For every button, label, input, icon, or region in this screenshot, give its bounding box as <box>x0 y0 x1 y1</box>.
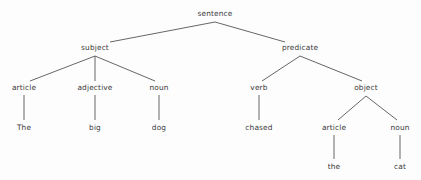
tree-edge-subject-to-noun1 <box>95 56 155 81</box>
tree-node-noun1: noun <box>149 84 168 91</box>
tree-edge-predicate-to-verb1 <box>262 56 300 81</box>
tree-node-word-chased: chased <box>245 124 272 131</box>
tree-node-word-dog: dog <box>152 124 166 131</box>
tree-node-word-cat: cat <box>394 163 406 170</box>
tree-node-adjective1: adjective <box>77 84 112 91</box>
tree-node-word-the1: The <box>17 124 31 131</box>
tree-node-verb1: verb <box>250 84 267 91</box>
tree-node-word-big: big <box>89 124 101 131</box>
tree-node-predicate: predicate <box>282 44 318 51</box>
tree-node-object: object <box>354 84 378 91</box>
tree-node-sentence: sentence <box>197 10 232 17</box>
tree-node-article2: article <box>322 124 346 131</box>
parse-tree-diagram: sentencesubjectpredicatearticleadjective… <box>0 0 421 180</box>
tree-node-article1: article <box>12 84 36 91</box>
tree-edge-object-to-noun2 <box>366 96 397 120</box>
tree-edge-predicate-to-object <box>300 56 362 81</box>
tree-node-subject: subject <box>81 44 109 51</box>
tree-edge-sentence-to-subject <box>110 22 215 42</box>
tree-edge-sentence-to-predicate <box>215 22 285 42</box>
tree-edge-object-to-article2 <box>338 96 366 120</box>
tree-node-word-the2: the <box>328 163 341 170</box>
tree-edge-subject-to-article1 <box>30 56 95 81</box>
tree-node-noun2: noun <box>390 124 409 131</box>
